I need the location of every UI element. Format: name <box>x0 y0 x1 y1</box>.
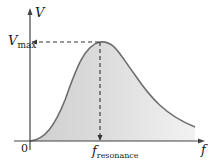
fresonance-label: fresonance <box>92 143 139 160</box>
y-axis-arrowhead <box>28 8 33 15</box>
fres-subscript: resonance <box>97 151 139 160</box>
vmax-subscript: max <box>17 40 36 50</box>
x-axis-label: f <box>201 142 206 157</box>
y-axis-label: V <box>35 5 44 20</box>
vmax-main: V <box>8 33 17 48</box>
vmax-label: Vmax <box>8 33 36 50</box>
origin-label: 0 <box>21 142 28 155</box>
resonance-curve-chart <box>0 0 213 164</box>
area-under-curve <box>30 42 195 141</box>
